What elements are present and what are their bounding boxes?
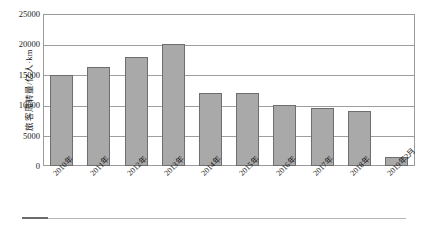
bar-chart-figure: 旅客周转量/亿人·km 0500010000150002000025000 20…: [0, 0, 428, 227]
bar-series: [43, 14, 415, 166]
y-axis-tick-label: 15000: [0, 70, 40, 80]
bar: [87, 67, 110, 166]
footer-divider: [22, 218, 406, 219]
y-axis-tick-label: 10000: [0, 100, 40, 110]
y-axis-tick-label: 25000: [0, 9, 40, 19]
y-axis-tick-label: 0: [0, 161, 40, 171]
bar: [199, 93, 222, 166]
bar: [50, 75, 73, 166]
bar: [125, 57, 148, 166]
footer-divider-accent: [22, 217, 48, 219]
bar: [162, 44, 185, 166]
y-axis-tick-label: 20000: [0, 39, 40, 49]
y-axis-tick-label: 5000: [0, 131, 40, 141]
y-axis-title: 旅客周转量/亿人·km: [22, 15, 34, 165]
